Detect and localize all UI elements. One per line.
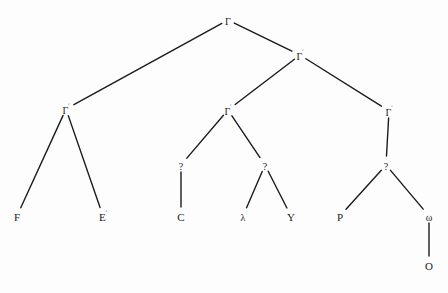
edge-gamma-left-to-e xyxy=(68,116,100,208)
node-label: E xyxy=(99,211,106,223)
edge-question-mid-to-lambda xyxy=(247,171,263,207)
node-label: C xyxy=(177,211,184,223)
node-leaf-o: O xyxy=(425,257,433,273)
edge-gamma-prime-to-gamma-mid xyxy=(235,59,294,104)
node-superscript: ʹ xyxy=(230,104,231,110)
edge-gamma-mid-to-question-left xyxy=(187,115,224,158)
edge-gamma-mid-to-question-mid xyxy=(232,116,260,158)
node-label: ? xyxy=(263,161,267,172)
node-leaf-p: P xyxy=(337,208,343,224)
node-superscript: ʹ xyxy=(68,103,69,109)
node-superscript: ʹ xyxy=(302,49,303,55)
node-leaf-f: F xyxy=(14,208,20,224)
edge-question-right-to-omega xyxy=(391,170,424,209)
node-label: ? xyxy=(179,161,183,172)
node-label: P xyxy=(337,211,343,223)
node-label: ω xyxy=(426,212,433,223)
node-leaf-omega: ω xyxy=(426,208,433,224)
node-gamma-mid: Γʹ xyxy=(224,102,231,118)
edge-root-to-gamma-left xyxy=(74,23,222,104)
node-question-mid: ? xyxy=(263,157,267,173)
node-label: λ xyxy=(241,212,246,223)
node-leaf-c: C xyxy=(177,208,184,224)
edge-gamma-right-to-question-right xyxy=(387,118,389,156)
node-leaf-e: Eʹ xyxy=(99,208,107,224)
edge-question-mid-to-y xyxy=(268,171,287,208)
node-gamma-prime: Γʹ xyxy=(296,47,303,63)
node-root-gamma: Γ xyxy=(225,12,231,28)
tree-edges-layer xyxy=(0,0,448,293)
edge-root-to-gamma-prime xyxy=(234,23,292,51)
node-gamma-right: Γʹ xyxy=(385,103,392,119)
node-gamma-left: Γʹ xyxy=(62,101,69,117)
edge-gamma-left-to-f xyxy=(21,115,63,207)
node-label: ? xyxy=(384,161,388,172)
node-label: Y xyxy=(287,211,295,223)
edge-gamma-prime-to-gamma-right xyxy=(306,59,381,106)
node-question-left: ? xyxy=(179,157,183,173)
node-label: F xyxy=(14,211,20,223)
node-superscript: ʹ xyxy=(391,105,392,111)
edge-question-right-to-p xyxy=(346,170,381,209)
node-superscript: ʹ xyxy=(106,210,107,216)
node-label: O xyxy=(425,260,433,272)
node-question-right: ? xyxy=(384,157,388,173)
node-label: Γ xyxy=(225,16,231,27)
syntax-tree-figure: ΓΓʹΓʹΓʹΓʹFEʹ?C?λY?PωO xyxy=(0,0,448,293)
node-leaf-y: Y xyxy=(287,208,295,224)
node-leaf-lambda: λ xyxy=(241,208,246,224)
